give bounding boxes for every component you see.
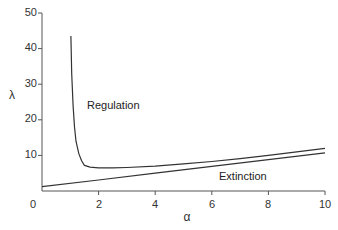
regulation-label: Regulation [87, 99, 140, 111]
y-tick-label: 40 [25, 41, 37, 53]
y-tick-label: 30 [25, 77, 37, 89]
x-tick-label: 0 [30, 198, 36, 210]
x-tick-label: 8 [265, 198, 271, 210]
x-axis-label: α [184, 210, 191, 224]
y-tick-label: 20 [25, 112, 37, 124]
x-tick-label: 10 [319, 198, 331, 210]
ticks [38, 13, 325, 195]
x-tick-label: 2 [96, 198, 102, 210]
y-tick-label: 10 [25, 148, 37, 160]
lower-boundary-line [42, 153, 325, 187]
series-lines [42, 36, 325, 187]
y-tick-labels: 10 20 30 40 50 [25, 6, 37, 160]
y-tick-label: 50 [25, 6, 37, 18]
x-tick-labels: 0 2 4 6 8 10 [30, 198, 331, 210]
extinction-label: Extinction [219, 170, 267, 182]
chart: 10 20 30 40 50 0 2 4 6 8 10 λ α Regulati… [0, 0, 338, 230]
y-axis-label: λ [9, 88, 15, 102]
x-tick-label: 6 [209, 198, 215, 210]
x-tick-label: 4 [152, 198, 158, 210]
